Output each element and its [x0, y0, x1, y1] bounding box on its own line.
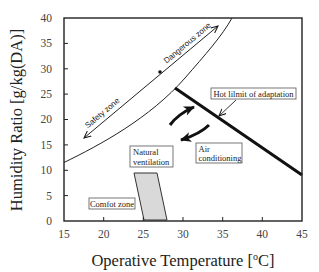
- x-tick-label: 35: [217, 228, 229, 240]
- safety-danger-dot: [158, 70, 162, 74]
- y-tick-label: 20: [41, 113, 53, 125]
- y-tick-label: 35: [41, 37, 53, 49]
- hot-limit-label: Hot lilmit of adaptation: [213, 89, 294, 99]
- x-axis-tick-labels: 15 20 25 30 35 40 45: [58, 228, 308, 240]
- x-axis-title-end: C]: [258, 251, 275, 270]
- natural-ventilation-arrow: [170, 107, 194, 125]
- natural-ventilation-label-line1: Natural: [133, 147, 159, 157]
- safety-danger-arrow: [84, 26, 218, 138]
- y-axis-title: Humidity Ratio [g/kg(DA)]: [7, 29, 26, 211]
- y-tick-label: 0: [46, 215, 52, 227]
- hot-limit-leader-arrow: [219, 100, 236, 116]
- axis-ticks: [64, 43, 262, 221]
- y-axis-tick-labels: 0 5 10 15 20 25 30 35 40: [41, 12, 53, 227]
- comfort-zone-label: Comfot zone: [90, 199, 134, 209]
- boundary-curve: [64, 18, 232, 163]
- x-axis-title: Operative Temperature [oC]: [91, 251, 274, 270]
- x-tick-label: 40: [257, 228, 269, 240]
- dangerous-zone-label: Dangerous zone: [162, 20, 213, 65]
- x-tick-label: 20: [98, 228, 110, 240]
- y-tick-label: 10: [41, 164, 53, 176]
- x-axis-title-main: Operative Temperature [: [91, 251, 253, 270]
- y-tick-label: 40: [41, 12, 53, 24]
- y-tick-label: 15: [41, 139, 53, 151]
- comfort-zone-region: [134, 173, 167, 220]
- x-tick-label: 45: [296, 228, 308, 240]
- safety-zone-label: Safety zone: [83, 96, 122, 130]
- y-tick-label: 5: [46, 190, 52, 202]
- humidity-temperature-chart: Humidity Ratio [g/kg(DA)] 0 5 10 15 20 2…: [0, 0, 319, 272]
- x-tick-label: 25: [138, 228, 150, 240]
- x-tick-label: 15: [58, 228, 70, 240]
- air-conditioning-label-line1: Air: [199, 144, 211, 154]
- x-tick-label: 30: [177, 228, 189, 240]
- air-conditioning-label-line2: conditioning: [199, 153, 243, 163]
- y-tick-label: 30: [41, 63, 53, 75]
- air-conditioning-arrow: [181, 125, 209, 140]
- y-tick-label: 25: [41, 88, 53, 100]
- natural-ventilation-label-line2: ventilation: [133, 157, 170, 167]
